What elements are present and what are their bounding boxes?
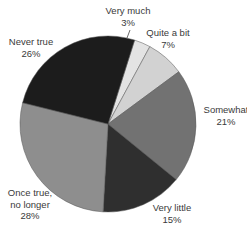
slice-label: Once true,no longer28%: [8, 187, 52, 221]
slice-label: Somewhat21%: [204, 104, 247, 127]
slice-label: Very little15%: [153, 202, 192, 225]
slice-label: Quite a bit7%: [146, 27, 190, 50]
slice-label: Very much3%: [106, 5, 151, 28]
slice-label: Never true26%: [9, 36, 53, 59]
pie-chart: Very much3%Quite a bit7%Somewhat21%Very …: [0, 0, 247, 239]
pie-slices: [20, 36, 196, 212]
leader-line: [127, 30, 130, 38]
